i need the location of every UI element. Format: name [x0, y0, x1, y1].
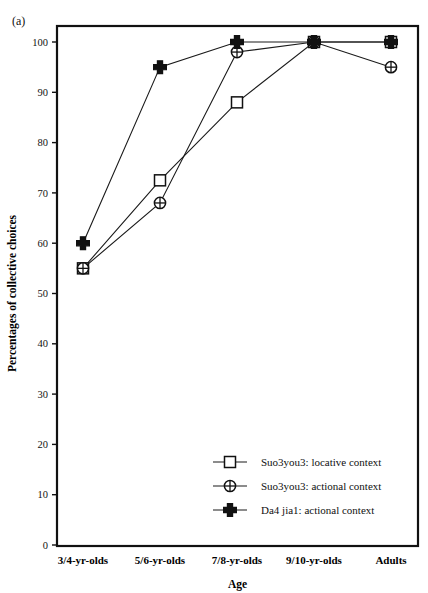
y-axis-tick-label: 0 — [43, 540, 48, 551]
marker-square — [225, 457, 236, 468]
y-axis-tick-label: 80 — [38, 137, 49, 148]
legend-label: Da4 jia1: actional context — [261, 504, 374, 516]
y-axis-tick-label: 60 — [38, 238, 49, 249]
figure-panel-a: (a) 0102030405060708090100Percentages of… — [0, 0, 428, 593]
series-line — [83, 42, 391, 268]
marker-square — [155, 175, 166, 186]
marker-plus — [224, 504, 237, 517]
y-axis-tick-label: 70 — [38, 188, 49, 199]
line-chart: 0102030405060708090100Percentages of col… — [0, 0, 428, 593]
x-axis-title: Age — [228, 578, 247, 591]
y-axis-tick-label: 90 — [38, 87, 49, 98]
x-axis-tick-label: 5/6-yr-olds — [135, 554, 186, 566]
x-axis-tick-label: 3/4-yr-olds — [58, 554, 109, 566]
x-axis-tick-label: 7/8-yr-olds — [212, 554, 263, 566]
x-axis-tick-label: Adults — [375, 554, 407, 566]
marker-plus — [154, 61, 167, 74]
series-1 — [78, 37, 397, 274]
legend-label: Suo3you3: actional context — [261, 480, 381, 492]
y-axis-tick-label: 50 — [38, 288, 49, 299]
series-line — [83, 42, 391, 243]
y-axis-tick-label: 20 — [38, 439, 49, 450]
marker-plus — [77, 237, 90, 250]
y-axis-tick-label: 100 — [32, 37, 48, 48]
legend: Suo3you3: locative contextSuo3you3: acti… — [213, 456, 381, 516]
marker-plus — [231, 36, 244, 49]
x-axis-tick-label: 9/10-yr-olds — [286, 554, 343, 566]
series-line — [83, 42, 391, 268]
series-3 — [77, 36, 398, 250]
y-axis-tick-label: 30 — [38, 389, 49, 400]
y-axis-title: Percentages of collective choices — [6, 214, 19, 372]
marker-square — [232, 97, 243, 108]
y-axis-tick-label: 10 — [38, 489, 49, 500]
series-2 — [77, 36, 396, 274]
legend-label: Suo3you3: locative context — [261, 456, 381, 468]
y-axis-tick-label: 40 — [38, 338, 49, 349]
